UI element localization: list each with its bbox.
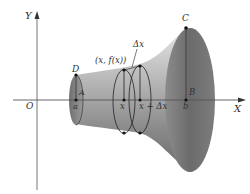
label-a: a: [73, 102, 78, 111]
label-x-plus-dx: x + Δx: [139, 101, 167, 111]
label-delta-x: Δx: [132, 39, 144, 49]
point-C: [184, 26, 188, 30]
delta-x-pointer: [132, 49, 137, 67]
label-curve-point: (x, f(x)): [95, 55, 126, 65]
label-x: x: [120, 101, 125, 111]
point-bottom-x: [122, 131, 125, 134]
label-B: B: [188, 87, 195, 97]
origin-label: O: [26, 101, 34, 111]
point-curve-x-dx: [138, 64, 141, 67]
y-axis: [35, 11, 40, 190]
label-C: C: [182, 13, 189, 23]
x-axis-label: X: [233, 103, 242, 114]
solid-of-revolution-diagram: Y X O D A a (x, f(x)) Δx x x + Δx C B b: [0, 0, 250, 194]
label-b: b: [183, 101, 188, 111]
label-D: D: [71, 64, 79, 74]
y-axis-label: Y: [25, 10, 33, 21]
point-curve-x: [122, 68, 125, 71]
label-A: A: [78, 88, 85, 97]
point-bottom-x-dx: [138, 131, 141, 134]
